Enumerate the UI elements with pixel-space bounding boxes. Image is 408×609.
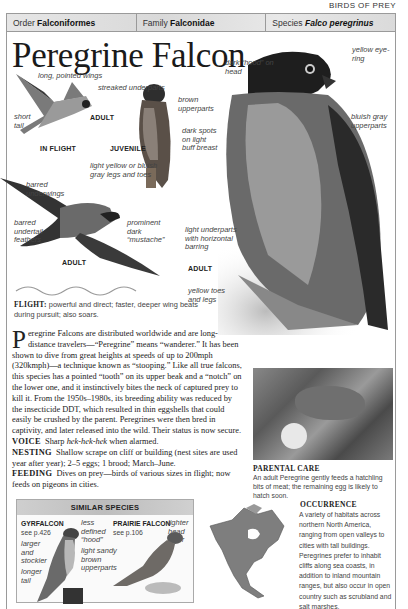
- dropcap: P: [12, 330, 26, 350]
- north-america-range-map: [202, 500, 298, 600]
- occurrence-title: OCCURRENCE: [300, 500, 357, 509]
- label-light-yellow-legs: light yellow or bluish gray legs and toe…: [90, 162, 158, 179]
- parental-care-text: An adult Peregrine gently feeds a hatchl…: [253, 473, 393, 500]
- caption-in-flight: IN FLIGHT: [40, 145, 76, 152]
- label-less-defined-hood: less defined “hood”: [81, 519, 111, 545]
- description-paragraph: Peregrine Falcons are distributed worldw…: [12, 329, 244, 437]
- gyrfalcon-name: GYRFALCON: [21, 520, 64, 527]
- label-barred-underwings: barred underwings: [26, 181, 66, 198]
- label-yellow-eye-ring: yellow eye-ring: [352, 46, 392, 63]
- label-bluish-gray-upperparts: bluish gray upperparts: [351, 113, 393, 130]
- parental-care-title: PARENTAL CARE: [253, 464, 320, 473]
- gyrfalcon-illustration: [35, 528, 83, 604]
- fact-voice: VOICE Sharp hek-hek-hek when alarmed.: [12, 437, 244, 448]
- caption-adult-flying: ADULT: [62, 259, 86, 266]
- label-barred-undertail: barred undertail feathers: [14, 219, 48, 245]
- caption-adult-inflight: ADULT: [90, 114, 114, 121]
- label-brown-upperparts: brown upperparts: [178, 96, 218, 113]
- parental-care-photo: [253, 368, 393, 460]
- taxonomy-bar: Order Falconiformes Family Falconidae Sp…: [6, 13, 396, 32]
- label-light-sandy-brown: light sandy brown upperparts: [81, 547, 117, 573]
- label-light-underparts-barring: light underparts with horizontal barring: [185, 226, 237, 252]
- flight-description: FLIGHT: powerful and direct; faster, dee…: [14, 300, 214, 320]
- taxonomy-order: Order Falconiformes: [7, 14, 137, 31]
- occurrence-text: A variety of habitats across northern No…: [299, 510, 395, 609]
- taxonomy-species: Species Falco peregrinus: [266, 14, 395, 31]
- label-yellow-toes-legs: yellow toes and legs: [188, 287, 228, 304]
- label-prominent-mustache: prominent dark “mustache”: [127, 219, 177, 245]
- adult-bird-feeding: [295, 386, 365, 420]
- page-title: Peregrine Falcon: [12, 36, 245, 76]
- similar-species-title: SIMILAR SPECIES: [17, 500, 193, 515]
- prairie-falcon-illustration: [113, 530, 187, 596]
- flight-pattern-wave: [14, 283, 144, 297]
- label-dark-hood: dark “hood” on head: [225, 59, 275, 76]
- label-long-pointed-wings: long, pointed wings: [38, 72, 102, 81]
- fact-nesting: NESTING Shallow scrape on cliff or build…: [12, 448, 244, 470]
- section-title: BIRDS OF PREY: [329, 1, 396, 10]
- adult-falcon-perched-photo: [218, 45, 394, 335]
- prairie-falcon-name: PRAIRIE FALCON: [113, 520, 170, 527]
- label-short-tail: short tail: [14, 113, 34, 130]
- caption-adult-perched: ADULT: [188, 265, 212, 272]
- caption-juvenile: JUVENILE: [110, 145, 146, 152]
- species-description: Peregrine Falcons are distributed worldw…: [12, 329, 244, 491]
- label-dark-spots-breast: dark spots on light buff breast: [182, 127, 220, 153]
- label-streaked-underparts: streaked underparts: [98, 84, 165, 93]
- similar-species-box: SIMILAR SPECIES GYRFALCON see p.426 larg…: [16, 499, 194, 603]
- hatchling: [281, 423, 307, 449]
- fact-feeding: FEEDING Dives on prey—birds of various s…: [12, 469, 244, 491]
- taxonomy-family: Family Falconidae: [137, 14, 267, 31]
